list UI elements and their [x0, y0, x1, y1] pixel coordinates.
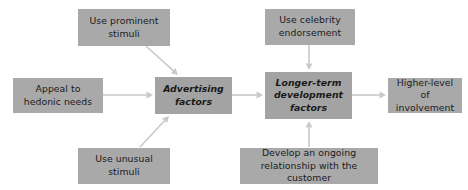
edge-relationship-to-longer-term — [306, 121, 313, 147]
node-higher-level-of-involvement[interactable]: Higher-level of involvement — [388, 78, 462, 113]
node-use-celebrity-endorsement[interactable]: Use celebrity endorsement — [265, 9, 355, 45]
edge-longer-term-to-higher-level — [352, 92, 386, 99]
node-advertising-factors[interactable]: Advertising factors — [155, 77, 232, 114]
node-label-use-celebrity-endorsement: Use celebrity endorsement — [279, 14, 341, 39]
node-develop-ongoing-relationship[interactable]: Develop an ongoing relationship with the… — [240, 148, 378, 184]
node-label-appeal-to-hedonic-needs: Appeal to hedonic needs — [24, 83, 92, 108]
flow-diagram: Use prominent stimuliUse celebrity endor… — [0, 0, 468, 190]
edge-advertising-to-longer-term — [232, 92, 263, 99]
arrowhead-icon — [147, 92, 154, 99]
node-label-higher-level-of-involvement: Higher-level of involvement — [391, 77, 459, 115]
node-appeal-to-hedonic-needs[interactable]: Appeal to hedonic needs — [13, 78, 103, 113]
node-label-advertising-factors: Advertising factors — [163, 83, 224, 108]
edge-hedonic-to-advertising — [103, 92, 153, 99]
node-longer-term-development-factors[interactable]: Longer-term development factors — [265, 72, 352, 119]
arrowhead-icon — [306, 121, 313, 128]
node-use-unusual-stimuli[interactable]: Use unusual stimuli — [78, 148, 170, 184]
node-use-prominent-stimuli[interactable]: Use prominent stimuli — [78, 9, 170, 46]
arrowhead-icon — [162, 116, 169, 123]
arrowhead-icon — [380, 92, 387, 99]
node-label-use-unusual-stimuli: Use unusual stimuli — [95, 153, 153, 178]
edge-celebrity-to-longer-term — [306, 45, 313, 70]
edge-prominent-to-advertising — [146, 46, 178, 75]
arrowhead-icon — [171, 68, 178, 75]
node-label-longer-term-development-factors: Longer-term development factors — [274, 77, 343, 115]
arrowhead-icon — [257, 92, 264, 99]
node-label-develop-ongoing-relationship: Develop an ongoing relationship with the… — [243, 147, 375, 185]
edge-unusual-to-advertising — [140, 116, 169, 147]
node-label-use-prominent-stimuli: Use prominent stimuli — [90, 15, 159, 40]
arrowhead-icon — [306, 64, 313, 71]
